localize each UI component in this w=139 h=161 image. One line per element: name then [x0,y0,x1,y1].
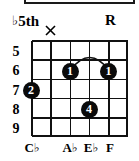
note-name-string-1: C♭ [21,141,43,154]
finger-dot-4: 4 [81,101,98,118]
fret-number-8: 8 [8,103,24,117]
note-accidental-1: ♭ [34,141,40,155]
note-letter-1: C [24,140,33,155]
note-letter-4: E [84,140,93,155]
fret-number-6: 6 [8,64,24,78]
finger-dot-1-string-3: 1 [62,63,79,80]
finger-dot-2: 2 [23,82,40,99]
interval-label-root: R [105,13,116,28]
fret-number-9: 9 [8,122,24,136]
interval-label-flat-fifth: ♭5th [12,14,39,29]
note-letter-5: F [106,140,114,155]
fret-number-5: 5 [8,45,24,59]
muted-string-x-icon [45,25,56,36]
note-name-string-4: E♭ [80,141,102,154]
interval-label-flat-fifth-text: 5th [18,13,39,29]
note-letter-3: A [62,140,71,155]
note-accidental-4: ♭ [93,141,99,155]
note-name-string-5: F [101,141,119,154]
chord-diagram-card: ♭5th R 5 6 7 8 9 [0,0,139,161]
fret-number-7: 7 [8,84,24,98]
finger-dot-1-string-5: 1 [100,63,117,80]
note-name-string-3: A♭ [59,141,81,154]
fretboard-grid [31,40,128,137]
clipped-top-box [24,0,135,4]
note-accidental-3: ♭ [72,141,78,155]
